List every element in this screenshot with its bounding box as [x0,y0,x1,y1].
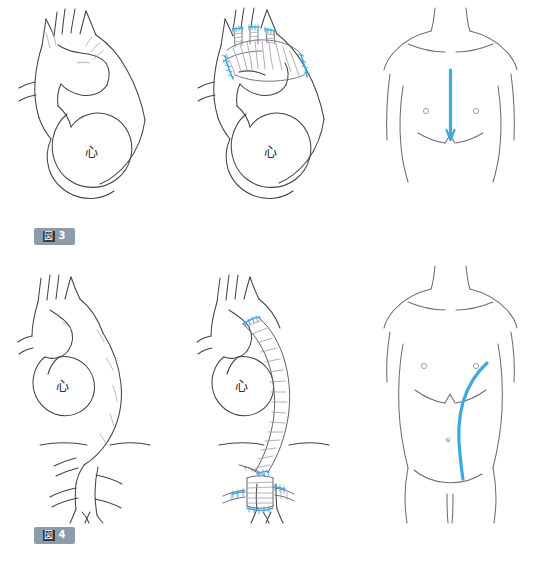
figure-3-panel: 心 [0,0,541,262]
thoracoabdominal-aneurysm-preop-illustration: 心 [2,262,182,524]
figure-badge-kanji: 図 [43,530,55,541]
suture-line-group-fig4 [232,317,285,510]
figure-3-badge: 図 3 [34,228,75,245]
heart-label-fig4-post: 心 [235,378,248,393]
thoracoabdominal-graft-illustration: 心 [181,262,361,524]
heart-label-fig4-pre: 心 [56,378,69,393]
figure-badge-number: 4 [59,529,66,541]
figure-4-panel: 心 [0,262,541,561]
median-sternotomy-body-illustration [360,0,541,228]
aortic-arch-aneurysm-preop-illustration: 心 [2,0,182,228]
thoracoabdominal-incision-body-illustration [360,262,541,524]
figure-badge-kanji: 図 [43,231,55,242]
total-arch-replacement-illustration: 心 [181,0,361,228]
thoracoabdominal-incision-line [459,363,487,479]
nipple-marker-right-fig4 [473,363,478,368]
nipple-marker-right [473,108,478,113]
figure-4-illustration-row: 心 [0,262,541,524]
heart-label-fig3-post: 心 [264,144,277,159]
nipple-marker-left-fig4 [421,363,426,368]
heart-label-fig3-pre: 心 [85,144,98,159]
figure-badge-number: 3 [59,230,66,242]
nipple-marker-left [423,108,428,113]
figure-4-badge: 図 4 [34,527,75,544]
figure-3-illustration-row: 心 [0,0,541,228]
median-sternotomy-incision-line [447,70,455,140]
